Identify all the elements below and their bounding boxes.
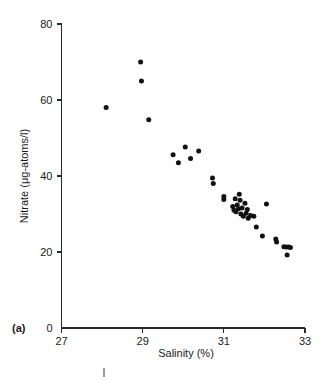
- data-point: [233, 196, 238, 201]
- data-point: [211, 181, 216, 186]
- x-tick-label: 33: [299, 335, 311, 347]
- x-tick-label: 27: [55, 335, 67, 347]
- data-point: [254, 224, 259, 229]
- data-point: [288, 245, 293, 250]
- data-point: [264, 202, 269, 207]
- y-axis-ticks: 020406080: [40, 18, 61, 334]
- y-tick-label: 60: [40, 94, 52, 106]
- x-tick-label: 29: [137, 335, 149, 347]
- axis-frame: [62, 24, 306, 328]
- data-point: [183, 145, 188, 150]
- plot-axes: [62, 24, 306, 328]
- data-point: [196, 148, 201, 153]
- data-point: [138, 60, 143, 65]
- data-point: [171, 152, 176, 157]
- data-point: [240, 205, 245, 210]
- y-tick-label: 40: [40, 170, 52, 182]
- scatter-plot-figure: 020406080 27293133 Salinity (%) Nitrate …: [0, 0, 320, 380]
- y-tick-label: 0: [46, 322, 52, 334]
- data-points-layer: [104, 60, 293, 258]
- data-point: [188, 156, 193, 161]
- panel-label: (a): [12, 322, 26, 334]
- x-axis-ticks: 27293133: [55, 328, 311, 347]
- data-point: [139, 79, 144, 84]
- data-point: [210, 175, 215, 180]
- y-tick-label: 20: [40, 246, 52, 258]
- data-point: [221, 197, 226, 202]
- y-axis-title: Nitrate (μg-atoms/l): [18, 129, 30, 223]
- data-point: [245, 207, 250, 212]
- data-point: [274, 240, 279, 245]
- plot-canvas: 020406080 27293133 Salinity (%) Nitrate …: [0, 0, 320, 380]
- data-point: [146, 117, 151, 122]
- data-point: [104, 105, 109, 110]
- data-point: [176, 160, 181, 165]
- data-point: [238, 198, 243, 203]
- data-point: [242, 201, 247, 206]
- data-point: [251, 214, 256, 219]
- data-point: [260, 234, 265, 239]
- x-axis-title: Salinity (%): [158, 347, 214, 359]
- data-point: [285, 253, 290, 258]
- data-point: [237, 192, 242, 197]
- x-tick-label: 31: [218, 335, 230, 347]
- y-tick-label: 80: [40, 18, 52, 30]
